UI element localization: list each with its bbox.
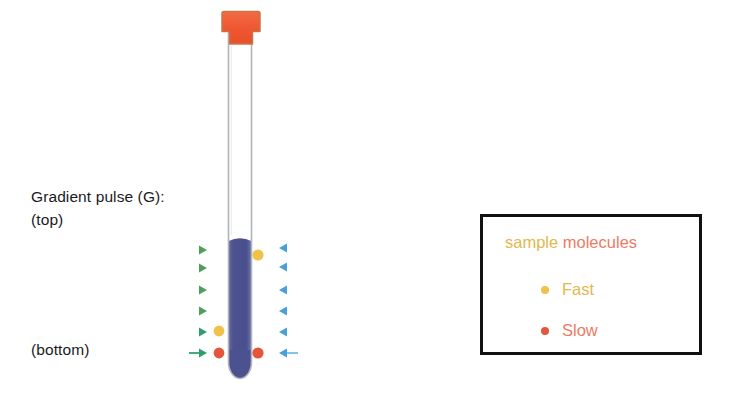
- legend-title-molecules: molecules: [558, 233, 637, 251]
- blue-arrow: [279, 306, 339, 315]
- figure-canvas: Gradient pulse (G): (top) (bottom) sampl…: [0, 0, 737, 401]
- green-arrow: [131, 286, 207, 295]
- molecule-dot-slow: [214, 348, 225, 359]
- green-arrow: [71, 246, 207, 255]
- green-arrow: [189, 349, 207, 358]
- legend-item-fast: Fast: [541, 280, 594, 299]
- legend-title: sample molecules: [505, 233, 637, 252]
- tube-liquid: [229, 238, 252, 385]
- blue-arrow: [279, 285, 358, 294]
- legend-label-slow: Slow: [562, 321, 598, 340]
- gradient-pulse-label: Gradient pulse (G):: [31, 188, 165, 206]
- top-label: (top): [31, 211, 63, 229]
- blue-arrow: [279, 348, 298, 357]
- legend-dot-fast-icon: [541, 286, 549, 294]
- legend-item-slow: Slow: [541, 321, 598, 340]
- molecule-dot-fast: [214, 326, 225, 337]
- molecule-dot-slow: [252, 347, 263, 358]
- blue-arrow: [279, 243, 413, 252]
- blue-arrow: [279, 327, 321, 336]
- green-arrow: [152, 307, 207, 316]
- gradient-arrows-right-blue: [279, 243, 413, 357]
- test-tube: [222, 12, 260, 386]
- blue-arrow: [279, 262, 389, 271]
- green-arrow: [171, 328, 207, 337]
- gradient-arrows-left-green: [71, 246, 207, 358]
- legend-title-sample: sample: [505, 233, 558, 251]
- molecule-dot-fast: [252, 249, 263, 260]
- legend-dot-slow-icon: [541, 327, 549, 335]
- legend-label-fast: Fast: [562, 280, 594, 299]
- legend-box: sample molecules Fast Slow: [480, 214, 702, 355]
- green-arrow: [97, 264, 207, 273]
- bottom-label: (bottom): [31, 341, 90, 359]
